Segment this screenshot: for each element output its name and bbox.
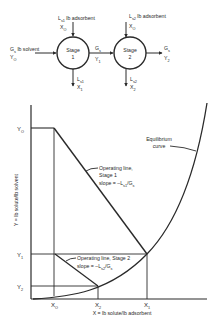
feed-y0-label: YO xyxy=(10,54,16,62)
interstage-y1-label: Y1 xyxy=(95,56,101,64)
two-stage-adsorption-diagram: Stage 1 Stage 2 Gs lb solvent YO Ls1 lb … xyxy=(0,0,219,331)
stage-1-label: Stage xyxy=(66,47,80,53)
op-line-2-label: Operating line, Stage 2 xyxy=(77,255,130,261)
adsorbent-2-x2-label: X2 xyxy=(130,84,136,92)
adsorbent-2-x0-label: XO xyxy=(129,23,135,31)
op-line-1-label-line1: Operating line, xyxy=(99,165,133,171)
op-line-1-pointer xyxy=(86,168,98,171)
equilibrium-curve xyxy=(33,103,207,299)
product-gs-label: Gs xyxy=(164,45,170,53)
y0-tick-label: YO xyxy=(17,126,24,134)
adsorbent-1-out-label: Ls1 xyxy=(77,76,84,84)
x-axis-title: X = lb solute/lb adsorbent xyxy=(93,310,152,316)
operating-diagram-graph: YO Y1 Y2 XO X2 X1 X = lb solute/lb adsor… xyxy=(13,103,207,316)
equilibrium-label-line2: curve xyxy=(153,143,166,149)
operating-line-stage-1 xyxy=(54,128,147,254)
feed-label: Gs lb solvent xyxy=(10,46,40,54)
stage-2-circle xyxy=(114,37,146,69)
adsorbent-1-x1-label: X1 xyxy=(77,84,83,92)
equilibrium-label-line1: Equilibrium xyxy=(146,136,172,142)
op-line-2-slope: slope = –Ls2/Gs xyxy=(77,263,113,271)
x0-tick-label: XO xyxy=(51,302,58,310)
stage-1-number: 1 xyxy=(72,54,75,60)
x1-tick-label: X1 xyxy=(144,302,150,310)
product-y2-label: Y2 xyxy=(164,55,170,63)
y1-tick-label: Y1 xyxy=(17,252,23,260)
stage-2-label: Stage xyxy=(123,47,137,53)
stage-1-circle xyxy=(57,37,89,69)
y2-tick-label: Y2 xyxy=(17,284,23,292)
stage-2-number: 2 xyxy=(129,54,132,60)
flow-diagram: Stage 1 Stage 2 Gs lb solvent YO Ls1 lb … xyxy=(10,13,170,92)
y-axis-title: Y = lb solute/lb solvent xyxy=(13,173,19,226)
adsorbent-1-x0-label: XO xyxy=(60,24,66,32)
adsorbent-2-in-label: Ls2 lb adsorbent xyxy=(129,13,166,21)
op-line-2-pointer xyxy=(66,258,76,261)
adsorbent-2-out-label: Ls2 xyxy=(130,76,137,84)
x2-tick-label: X2 xyxy=(95,302,101,310)
equilibrium-pointer xyxy=(170,146,196,151)
op-line-1-slope: slope = –Ls1/Gs xyxy=(99,180,135,188)
adsorbent-1-in-label: Ls1 lb adsorbent xyxy=(58,15,95,23)
interstage-gs-label: Gs xyxy=(95,45,101,53)
op-line-1-label-line2: Stage 1 xyxy=(99,172,117,178)
